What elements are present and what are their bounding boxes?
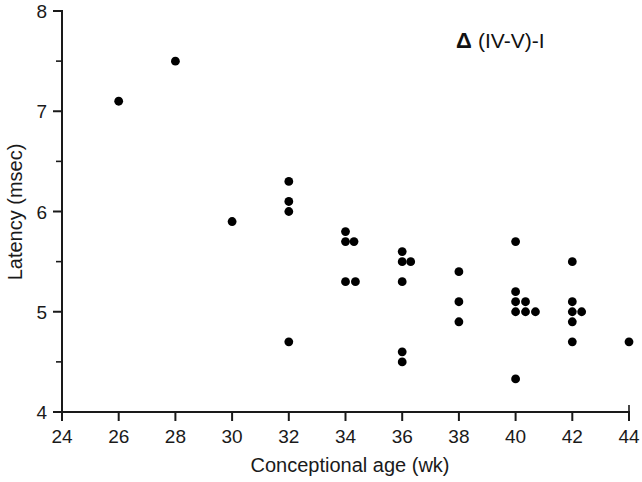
x-tick-label: 40 [505, 426, 526, 447]
data-point [341, 237, 350, 246]
data-point [511, 375, 520, 384]
y-tick-label: 5 [36, 302, 47, 323]
data-point [568, 297, 577, 306]
data-point [521, 297, 530, 306]
axes [62, 11, 629, 412]
y-axis-title: Latency (msec) [4, 144, 26, 281]
data-point [568, 317, 577, 326]
data-point [171, 57, 180, 66]
data-point [568, 337, 577, 346]
data-point [284, 337, 293, 346]
data-point [455, 297, 464, 306]
data-point [398, 277, 407, 286]
x-tick-label: 38 [448, 426, 469, 447]
data-point [511, 287, 520, 296]
data-point [398, 257, 407, 266]
axis-spines [62, 11, 629, 412]
x-tick-label: 28 [165, 426, 186, 447]
data-point [511, 307, 520, 316]
x-tick-label: 30 [222, 426, 243, 447]
data-point [398, 357, 407, 366]
y-axis-tick-labels: 45678 [36, 1, 47, 423]
data-point [521, 307, 530, 316]
data-point [625, 337, 634, 346]
data-points [114, 57, 633, 384]
scatter-plot-figure: 45678 2426283032343638404244 Latency (ms… [0, 0, 642, 482]
y-tick-label: 7 [36, 101, 47, 122]
x-tick-label: 36 [392, 426, 413, 447]
data-point [568, 307, 577, 316]
plot-canvas: 45678 2426283032343638404244 Latency (ms… [0, 0, 642, 482]
x-tick-label: 24 [51, 426, 73, 447]
data-point [284, 207, 293, 216]
y-tick-label: 8 [36, 1, 47, 22]
x-tick-label: 26 [108, 426, 129, 447]
series-annotation-label: (IV-V)-I [478, 29, 545, 52]
data-point [406, 257, 415, 266]
data-point [114, 97, 123, 106]
data-point [455, 317, 464, 326]
data-point [511, 237, 520, 246]
x-axis-title: Conceptional age (wk) [251, 454, 450, 476]
data-point [341, 277, 350, 286]
data-point [284, 197, 293, 206]
data-point [577, 307, 586, 316]
data-point [531, 307, 540, 316]
data-point [341, 227, 350, 236]
data-point [351, 277, 360, 286]
data-point [455, 267, 464, 276]
data-point [398, 247, 407, 256]
y-tick-label: 4 [36, 402, 47, 423]
data-point [284, 177, 293, 186]
data-point [398, 347, 407, 356]
axis-ticks [53, 11, 629, 421]
x-tick-label: 44 [618, 426, 640, 447]
delta-symbol-annotation: Δ [456, 28, 472, 53]
x-tick-label: 34 [335, 426, 357, 447]
x-tick-label: 42 [562, 426, 583, 447]
data-point [568, 257, 577, 266]
data-point [511, 297, 520, 306]
x-tick-label: 32 [278, 426, 299, 447]
x-axis-tick-labels: 2426283032343638404244 [51, 426, 640, 447]
data-point [228, 217, 237, 226]
data-point [350, 237, 359, 246]
y-tick-label: 6 [36, 202, 47, 223]
